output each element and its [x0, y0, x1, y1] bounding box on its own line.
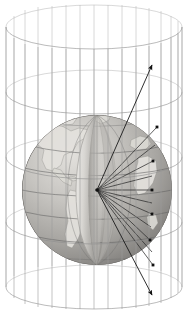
cylindrical-projection-figure [0, 0, 188, 314]
projection-diagram-canvas [0, 0, 188, 314]
globe-centre-point [95, 188, 99, 192]
